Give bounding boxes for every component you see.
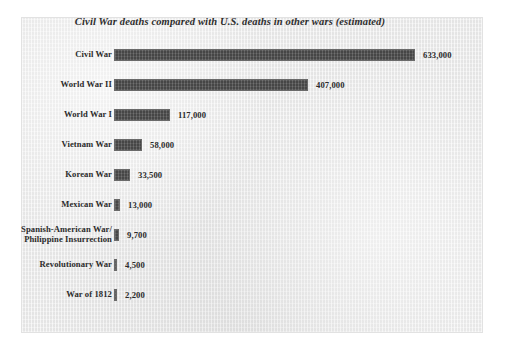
chart-content: Civil War deaths compared with U.S. deat… — [0, 0, 508, 355]
bar — [114, 139, 142, 151]
bar-value-label: 117,000 — [178, 110, 206, 120]
category-label: Civil War — [0, 50, 112, 60]
category-label: Spanish-American War/ Philippine Insurre… — [0, 225, 112, 245]
category-label: Revolutionary War — [0, 260, 112, 270]
bar-value-label: 13,000 — [128, 200, 152, 210]
bar-rows: Civil War633,000World War II407,000World… — [0, 40, 460, 310]
bar-track: 4,500 — [114, 259, 454, 271]
bar-value-label: 407,000 — [316, 80, 345, 90]
chart-figure: Civil War deaths compared with U.S. deat… — [0, 0, 508, 355]
bar-value-label: 4,500 — [125, 260, 145, 270]
bar — [114, 109, 170, 121]
bar-track: 633,000 — [114, 49, 454, 61]
bar-row: Vietnam War58,000 — [0, 130, 460, 160]
bar-track: 407,000 — [114, 79, 454, 91]
bar-track: 13,000 — [114, 199, 454, 211]
category-label: World War II — [0, 80, 112, 90]
bar-track: 2,200 — [114, 289, 454, 301]
bar — [114, 289, 117, 301]
category-label: Mexican War — [0, 200, 112, 210]
bar-row: Spanish-American War/ Philippine Insurre… — [0, 220, 460, 250]
bar-track: 9,700 — [114, 229, 454, 241]
bar-value-label: 633,000 — [423, 50, 452, 60]
bar-value-label: 2,200 — [125, 290, 145, 300]
bar-row: Korean War33,500 — [0, 160, 460, 190]
bar-track: 58,000 — [114, 139, 454, 151]
category-label: World War I — [0, 110, 112, 120]
bar — [114, 229, 119, 241]
bar-value-label: 58,000 — [150, 140, 174, 150]
category-label: War of 1812 — [0, 290, 112, 300]
bar-value-label: 33,500 — [138, 170, 162, 180]
category-label: Vietnam War — [0, 140, 112, 150]
category-label: Korean War — [0, 170, 112, 180]
bar-row: World War I117,000 — [0, 100, 460, 130]
bar-track: 33,500 — [114, 169, 454, 181]
bar — [114, 49, 415, 61]
bar-row: World War II407,000 — [0, 70, 460, 100]
bar — [114, 79, 308, 91]
bar-row: Mexican War13,000 — [0, 190, 460, 220]
bar-row: War of 18122,200 — [0, 280, 460, 310]
bar — [114, 259, 117, 271]
bar-track: 117,000 — [114, 109, 454, 121]
bar-value-label: 9,700 — [127, 230, 147, 240]
bar — [114, 169, 130, 181]
bar-row: Revolutionary War4,500 — [0, 250, 460, 280]
chart-title: Civil War deaths compared with U.S. deat… — [0, 16, 460, 27]
bar — [114, 199, 120, 211]
bar-row: Civil War633,000 — [0, 40, 460, 70]
